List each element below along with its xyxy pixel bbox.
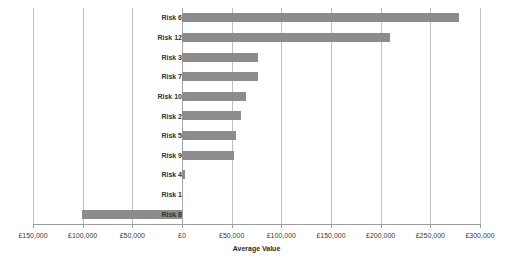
x-axis-tick bbox=[83, 224, 84, 228]
bar-chart: Average Value £150,000£100,000£50,000£0£… bbox=[0, 0, 513, 264]
category-label: Risk 8 bbox=[0, 210, 185, 219]
category-label: Risk 12 bbox=[0, 33, 185, 42]
bar[interactable] bbox=[182, 151, 234, 160]
bar[interactable] bbox=[182, 13, 459, 22]
category-label: Risk 9 bbox=[0, 151, 185, 160]
x-axis-tick bbox=[430, 224, 431, 228]
x-axis-tick-label: £100,000 bbox=[68, 231, 97, 240]
bar[interactable] bbox=[182, 111, 241, 120]
x-axis-tick-label: £50,000 bbox=[120, 231, 145, 240]
category-label: Risk 2 bbox=[0, 112, 185, 121]
bar[interactable] bbox=[182, 72, 258, 81]
category-label: Risk 10 bbox=[0, 92, 185, 101]
x-axis-tick-label: £50,000 bbox=[219, 231, 244, 240]
x-axis-tick bbox=[281, 224, 282, 228]
x-axis-line bbox=[33, 224, 480, 225]
bar[interactable] bbox=[182, 92, 246, 101]
x-axis-title: Average Value bbox=[0, 245, 513, 252]
x-axis-tick-label: £0 bbox=[178, 231, 186, 240]
x-axis-tick bbox=[381, 224, 382, 228]
x-axis-tick bbox=[480, 224, 481, 228]
x-axis-tick-label: £200,000 bbox=[366, 231, 395, 240]
category-label: Risk 7 bbox=[0, 72, 185, 81]
x-axis-tick-label: £150,000 bbox=[18, 231, 47, 240]
x-axis-tick-label: £150,000 bbox=[316, 231, 345, 240]
x-axis-tick-label: £300,000 bbox=[465, 231, 494, 240]
bar[interactable] bbox=[182, 131, 236, 140]
category-label: Risk 1 bbox=[0, 190, 185, 199]
x-axis-tick-label: £100,000 bbox=[267, 231, 296, 240]
x-axis-tick-label: £250,000 bbox=[416, 231, 445, 240]
category-label: Risk 3 bbox=[0, 53, 185, 62]
bar[interactable] bbox=[182, 33, 390, 42]
category-label: Risk 5 bbox=[0, 131, 185, 140]
x-axis-tick bbox=[232, 224, 233, 228]
category-label: Risk 6 bbox=[0, 13, 185, 22]
gridline bbox=[480, 8, 481, 224]
x-axis-tick bbox=[33, 224, 34, 228]
category-label: Risk 4 bbox=[0, 170, 185, 179]
x-axis-tick bbox=[331, 224, 332, 228]
bar[interactable] bbox=[182, 53, 258, 62]
x-axis-tick bbox=[132, 224, 133, 228]
x-axis-tick bbox=[182, 224, 183, 228]
